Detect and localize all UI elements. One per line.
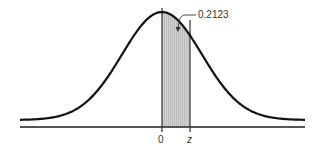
normal-distribution-chart — [0, 0, 323, 156]
area-annotation: 0.2123 — [198, 9, 229, 20]
tick-label-zero: 0 — [158, 134, 164, 145]
tick-label-z: z — [187, 134, 192, 145]
